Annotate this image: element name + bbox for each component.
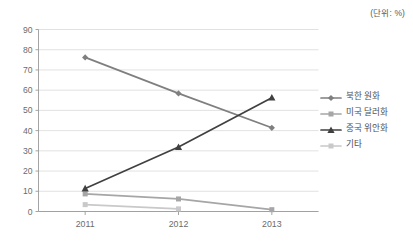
data-point-square-marker	[83, 202, 88, 207]
y-tick-label: 70	[23, 65, 33, 75]
x-axis-tick-labels: 201120122013	[76, 212, 282, 229]
legend-item-label: 북한 원화	[346, 90, 380, 102]
data-point-diamond-marker	[269, 125, 275, 131]
data-point-square-marker	[176, 196, 181, 201]
legend-item[interactable]: 북한 원화	[320, 88, 413, 104]
data-point-square-marker	[269, 207, 274, 212]
y-tick-label: 60	[23, 85, 33, 95]
diamond-marker	[320, 90, 342, 102]
data-point-square-marker	[176, 206, 181, 211]
y-axis-tick-labels: 0102030405060708090	[23, 25, 39, 217]
data-point-diamond-marker	[82, 54, 88, 60]
data-point-diamond-marker	[175, 90, 181, 96]
y-tick-label: 40	[23, 126, 33, 136]
triangle-marker	[320, 122, 342, 134]
y-tick-label: 80	[23, 45, 33, 55]
legend-item[interactable]: 중국 위안화	[320, 120, 413, 136]
y-tick-label: 0	[28, 207, 33, 217]
legend-item[interactable]: 기타	[320, 136, 413, 152]
x-tick-label: 2013	[262, 219, 282, 229]
y-tick-label: 20	[23, 166, 33, 176]
series-line	[82, 94, 276, 191]
series-line	[82, 54, 275, 131]
x-tick-label: 2012	[169, 219, 189, 229]
data-point-square-marker	[329, 144, 334, 149]
square-marker	[320, 138, 342, 150]
series-polyline	[85, 205, 178, 209]
y-tick-label: 50	[23, 105, 33, 115]
chart-legend: 북한 원화미국 달러화중국 위안화기타	[320, 88, 413, 152]
data-series-layer	[82, 54, 276, 212]
data-point-triangle-marker	[268, 94, 275, 101]
legend-item-label: 기타	[346, 138, 362, 150]
y-tick-label: 30	[23, 146, 33, 156]
chart-figure: (단위: %) 0102030405060708090 201120122013…	[0, 0, 413, 251]
series-line	[83, 202, 181, 211]
data-point-square-marker	[329, 112, 334, 117]
plot-frame	[39, 30, 319, 212]
legend-item-label: 미국 달러화	[346, 106, 388, 118]
data-point-triangle-marker	[175, 143, 182, 150]
y-tick-label: 10	[23, 186, 33, 196]
data-point-square-marker	[83, 191, 88, 196]
legend-item-label: 중국 위안화	[346, 122, 388, 134]
square-marker	[320, 106, 342, 118]
legend-item[interactable]: 미국 달러화	[320, 104, 413, 120]
data-point-diamond-marker	[328, 95, 334, 101]
x-tick-label: 2011	[76, 219, 95, 229]
gridlines	[39, 30, 319, 212]
y-tick-label: 90	[23, 25, 33, 35]
series-polyline	[85, 98, 272, 189]
